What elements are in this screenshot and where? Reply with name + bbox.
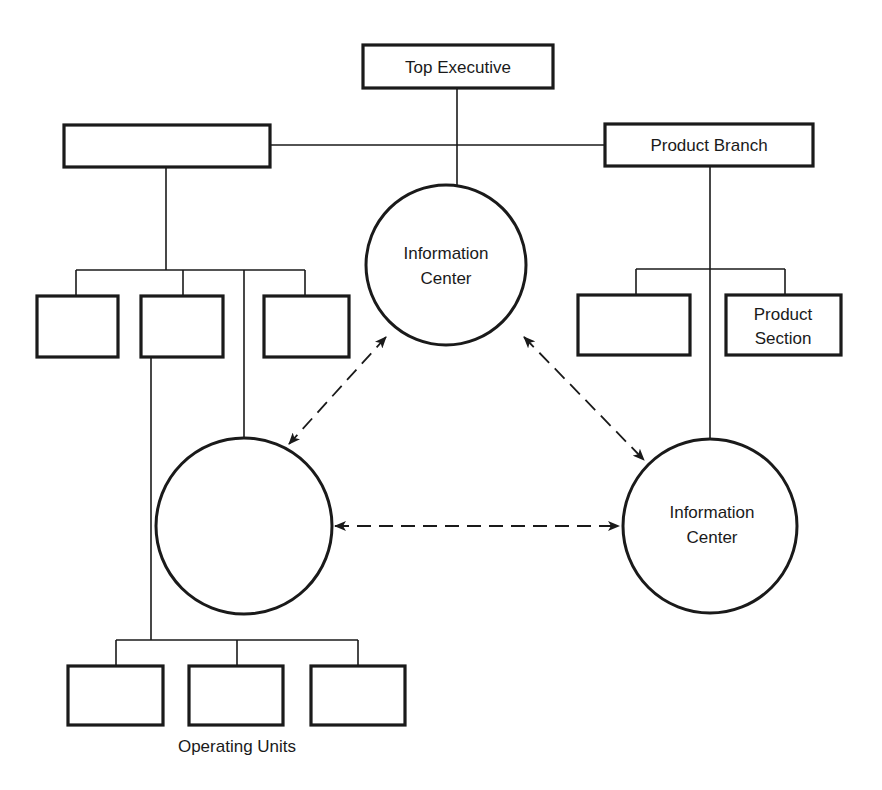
top-executive-box: Top Executive (363, 45, 553, 88)
operating-unit-box-3 (311, 666, 405, 725)
svg-text:Information: Information (669, 503, 754, 522)
information-center-top: Information Center (366, 185, 526, 345)
svg-text:Information: Information (403, 244, 488, 263)
product-branch-label: Product Branch (650, 136, 767, 155)
operating-unit-box-1 (68, 666, 163, 725)
operating-units-label: Operating Units (178, 737, 296, 756)
product-branch-box: Product Branch (605, 124, 813, 166)
left-sub-box-1 (37, 296, 118, 357)
communication-arrows (289, 337, 644, 526)
operating-unit-box-2 (189, 666, 283, 725)
left-sub-box-3 (264, 296, 349, 357)
product-section-box: Product Section (726, 295, 841, 355)
svg-text:Product: Product (754, 305, 813, 324)
svg-text:Section: Section (755, 329, 812, 348)
left-branch-box (64, 125, 270, 167)
svg-text:Center: Center (420, 269, 471, 288)
top-executive-label: Top Executive (405, 58, 511, 77)
svg-text:Center: Center (686, 528, 737, 547)
information-center-left (156, 438, 332, 614)
left-sub-box-2 (141, 296, 223, 357)
information-center-right: Information Center (623, 439, 797, 613)
right-sub-box-1 (578, 295, 690, 355)
org-chart-diagram: Top Executive Product Branch Product Sec… (0, 0, 882, 790)
